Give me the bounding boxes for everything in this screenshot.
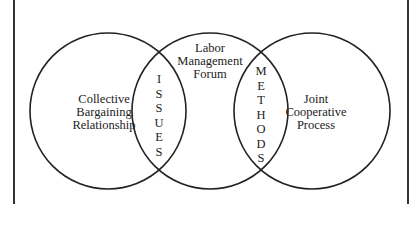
letter: S — [258, 151, 265, 166]
letter: E — [257, 79, 265, 94]
letter: U — [154, 116, 163, 131]
letter: T — [257, 93, 265, 108]
label-line: Process — [254, 119, 378, 132]
letter: I — [157, 72, 161, 87]
letter: D — [256, 137, 265, 152]
letter: E — [155, 130, 163, 145]
letter: S — [156, 101, 163, 116]
letter: H — [256, 108, 265, 123]
letter: O — [256, 122, 265, 137]
letter: M — [255, 64, 266, 79]
overlap-label-issues: I S S U E S — [150, 72, 168, 159]
label-line: Relationship — [42, 119, 166, 132]
overlap-label-methods: M E T H O D S — [252, 64, 270, 166]
label-joint-cooperative-process: Joint Cooperative Process — [254, 93, 378, 132]
label-collective-bargaining-relationship: Collective Bargaining Relationship — [42, 93, 166, 132]
letter: S — [156, 87, 163, 102]
letter: S — [156, 145, 163, 160]
